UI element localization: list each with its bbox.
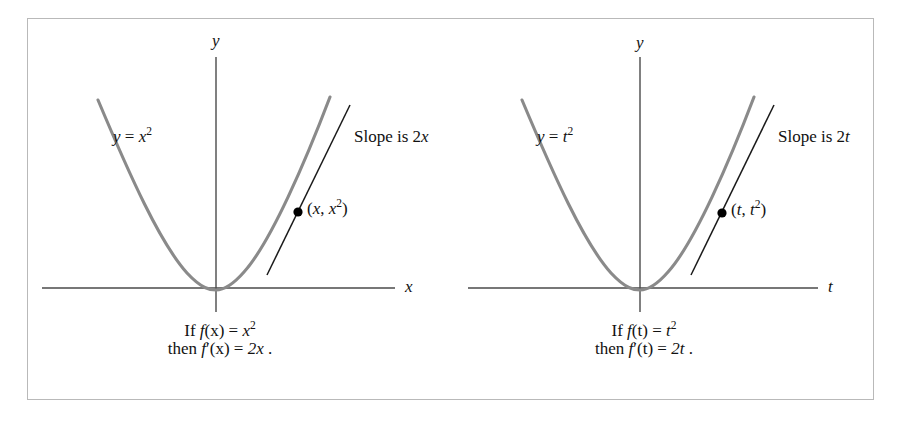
curve-eq-operator: = <box>549 127 559 146</box>
slope-note-coefficient: 2 <box>413 127 422 146</box>
curve-eq-exponent: 2 <box>567 125 573 138</box>
tangent-point-label: (x, x2) <box>307 200 348 218</box>
y-axis-label: y <box>636 34 644 52</box>
caption-argument-1: (x) <box>205 321 225 340</box>
caption-equals-1: = <box>648 321 666 340</box>
panel-caption: If f(x) = x2 then f′(x) = 2x . <box>105 322 335 358</box>
caption-lead-1: If <box>612 321 628 340</box>
curve-eq-lhs: y <box>113 127 121 146</box>
caption-lead-1: If <box>184 321 200 340</box>
tangent-line <box>267 105 350 275</box>
slope-note-prefix: Slope is <box>778 127 837 146</box>
caption-argument-2: (t) <box>637 339 653 358</box>
curve-eq-exponent: 2 <box>146 125 152 138</box>
slope-note-variable: x <box>421 127 429 146</box>
y-axis-label: y <box>212 32 220 50</box>
caption-argument-1: (t) <box>632 321 648 340</box>
caption-line-2: then f′(t) = 2t . <box>529 340 759 358</box>
parabola-curve <box>98 97 330 290</box>
figure-root: y x y = x2 Slope is 2x (x, x2) If f(x) =… <box>0 0 905 422</box>
tangent-point-marker <box>293 207 302 216</box>
caption-period-2: . <box>264 339 273 358</box>
caption-exponent-1: 2 <box>671 319 677 332</box>
caption-base-1: x <box>242 321 250 340</box>
parabola-curve <box>522 97 754 290</box>
x-axis-label: x <box>405 278 413 296</box>
point-close-paren: ) <box>760 200 766 219</box>
slope-note-coefficient: 2 <box>837 127 846 146</box>
point-comma: , <box>320 199 329 218</box>
caption-line-1: If f(x) = x2 <box>105 322 335 340</box>
curve-equation-label: y = x2 <box>113 128 152 146</box>
panel-right: y t y = t2 Slope is 2t (t, t2) If f(t) =… <box>436 0 866 422</box>
tangent-point-label: (t, t2) <box>731 201 766 219</box>
slope-note-label: Slope is 2t <box>778 128 850 146</box>
caption-line-1: If f(t) = t2 <box>529 322 759 340</box>
t-axis-label: t <box>828 278 833 296</box>
panel-left-graphics <box>10 0 440 422</box>
caption-equals-2: = <box>653 339 671 358</box>
caption-value-2: 2t <box>671 339 684 358</box>
caption-equals-2: = <box>230 339 248 358</box>
curve-eq-lhs: y <box>537 127 545 146</box>
caption-exponent-1: 2 <box>250 319 256 332</box>
caption-line-2: then f′(x) = 2x . <box>105 340 335 358</box>
point-comma: , <box>741 200 750 219</box>
caption-lead-2: then <box>168 339 202 358</box>
tangent-point-marker <box>717 208 726 217</box>
slope-note-prefix: Slope is <box>354 127 413 146</box>
caption-argument-2: (x) <box>210 339 230 358</box>
slope-note-variable: t <box>845 127 850 146</box>
panel-left: y x y = x2 Slope is 2x (x, x2) If f(x) =… <box>10 0 440 422</box>
point-close-paren: ) <box>342 199 348 218</box>
tangent-line <box>691 105 774 275</box>
caption-value-2: 2x <box>248 339 264 358</box>
caption-lead-2: then <box>595 339 629 358</box>
curve-eq-operator: = <box>125 127 135 146</box>
slope-note-label: Slope is 2x <box>354 128 429 146</box>
caption-equals-1: = <box>224 321 242 340</box>
panel-caption: If f(t) = t2 then f′(t) = 2t . <box>529 322 759 358</box>
curve-equation-label: y = t2 <box>537 128 573 146</box>
panel-right-graphics <box>436 0 866 422</box>
caption-period-2: . <box>684 339 693 358</box>
